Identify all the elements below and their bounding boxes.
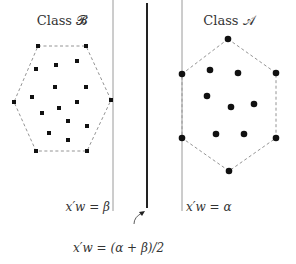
class-a-point [213, 131, 220, 138]
class-a-points [179, 36, 280, 175]
class-a-point [226, 168, 233, 175]
class-a-point [241, 131, 248, 138]
class-b-point [34, 67, 38, 71]
class-a-label: Class 𝒜 [203, 13, 256, 28]
class-b-point [66, 138, 70, 142]
class-a-point [225, 36, 232, 43]
class-b-point [53, 85, 57, 89]
class-b-point [75, 100, 79, 104]
class-a-point [207, 67, 214, 74]
hyperplane-diagram: Class 𝓑 Class 𝒜 x′w = β x′w = α x′w = (α… [0, 0, 296, 264]
arrow-icon [134, 211, 145, 224]
class-b-point [47, 131, 51, 135]
class-a-point [179, 71, 186, 78]
class-a-point [273, 135, 280, 142]
class-b-point [75, 59, 79, 63]
class-a-point [204, 93, 211, 100]
class-b-point [85, 149, 89, 153]
class-b-point [36, 44, 40, 48]
class-b-point [109, 98, 113, 102]
class-b-label: Class 𝓑 [37, 13, 88, 28]
class-b-point [30, 95, 34, 99]
class-a-point [179, 135, 186, 142]
class-b-point [54, 63, 58, 67]
class-a-point [273, 70, 280, 77]
class-b-point [57, 106, 61, 110]
class-a-point [228, 104, 235, 111]
class-b-point [85, 124, 89, 128]
class-b-convex-hull [14, 46, 111, 151]
beta-line-label: x′w = β [66, 200, 110, 214]
midpoint-line-label: x′w = (α + β)/2 [73, 241, 164, 255]
class-a-point [251, 101, 258, 108]
class-b-point [40, 111, 44, 115]
class-b-points [12, 44, 113, 153]
class-b-point [66, 119, 70, 123]
class-b-point [84, 44, 88, 48]
class-a-point [235, 70, 242, 77]
hull-outline [14, 46, 111, 151]
class-b-point [84, 85, 88, 89]
alpha-line-label: x′w = α [186, 200, 232, 214]
class-b-point [34, 149, 38, 153]
class-b-point [12, 100, 16, 104]
